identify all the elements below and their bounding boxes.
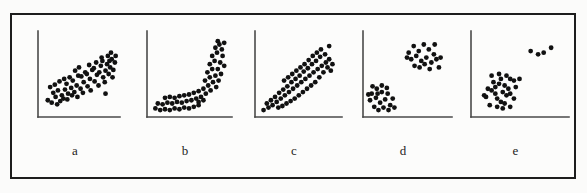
scatter-point (182, 93, 187, 98)
scatter-point (63, 87, 68, 92)
panel-e-axes (471, 31, 569, 117)
scatter-point (175, 99, 180, 104)
scatter-point (517, 77, 522, 82)
scatter-point (163, 107, 168, 112)
scatter-point (500, 106, 505, 111)
scatter-point (427, 67, 432, 72)
scatter-point (163, 95, 168, 100)
scatter-point (215, 39, 220, 44)
scatter-point (220, 54, 225, 59)
scatter-point (184, 99, 189, 104)
scatter-point (277, 90, 282, 95)
scatter-point (289, 80, 294, 85)
scatter-point (315, 67, 320, 72)
scatter-point (196, 89, 201, 94)
scatter-point (112, 60, 117, 65)
scatter-point (264, 101, 269, 106)
scatter-point (182, 105, 187, 110)
scatter-point (78, 86, 83, 91)
scatter-point (57, 79, 62, 84)
scatter-point (495, 96, 500, 101)
panel-a-label: a (26, 143, 124, 159)
scatter-point (56, 88, 61, 93)
scatter-point (207, 75, 212, 80)
scatter-point (319, 63, 324, 68)
scatter-point (405, 55, 410, 60)
scatter-point (409, 57, 414, 62)
scatter-point (292, 96, 297, 101)
scatter-point (301, 69, 306, 74)
scatter-point (383, 97, 388, 102)
scatter-point (314, 58, 319, 63)
scatter-point (286, 75, 291, 80)
scatter-point (282, 78, 287, 83)
scatter-point (107, 58, 112, 63)
scatter-point (101, 75, 106, 80)
scatter-point (213, 73, 218, 78)
scatter-point (64, 81, 69, 86)
scatter-point (206, 83, 211, 88)
scatter-point (269, 98, 274, 103)
scatter-point (502, 83, 507, 88)
scatter-point (205, 70, 210, 75)
scatter-point (280, 104, 285, 109)
scatter-point (219, 72, 224, 77)
panel-c-plot (243, 15, 345, 143)
scatter-point (504, 93, 509, 98)
scatter-point (386, 108, 391, 113)
scatter-point (158, 108, 163, 113)
scatter-point (65, 97, 70, 102)
scatter-point (504, 73, 509, 78)
scatter-point (210, 54, 215, 59)
scatter-point (170, 101, 175, 106)
scatter-point (110, 75, 115, 80)
scatter-point (323, 52, 328, 57)
scatter-point (528, 49, 533, 54)
scatter-point (73, 68, 78, 73)
panel-b: b (135, 15, 235, 181)
scatter-point (318, 54, 323, 59)
scatter-point (499, 99, 504, 104)
scatter-point (79, 74, 84, 79)
scatter-point (549, 45, 554, 50)
scatter-point (201, 86, 206, 91)
scatter-point (96, 83, 101, 88)
scatter-point (376, 108, 381, 113)
scatter-point (385, 91, 390, 96)
scatter-point (106, 72, 111, 77)
scatter-point (437, 65, 442, 70)
scatter-point (49, 100, 54, 105)
scatter-point (212, 58, 217, 63)
scatter-point (434, 57, 439, 62)
scatter-point (417, 65, 422, 70)
scatter-point (485, 86, 490, 91)
scatter-point (81, 80, 86, 85)
scatter-point (309, 83, 314, 88)
scatter-point (299, 80, 304, 85)
scatter-point (414, 54, 419, 59)
scatter-point (287, 90, 292, 95)
scatter-point (412, 63, 417, 68)
scatter-point (97, 70, 102, 75)
scatter-point (167, 108, 172, 113)
scatter-point (191, 90, 196, 95)
scatter-point (87, 63, 92, 68)
scatter-point (187, 106, 192, 111)
scatter-point (512, 96, 517, 101)
scatter-point (210, 67, 215, 72)
scatter-point (219, 47, 224, 52)
panel-a: a (26, 15, 124, 181)
scatter-point (301, 90, 306, 95)
scatter-point (499, 77, 504, 82)
scatter-point (368, 98, 373, 103)
scatter-point (284, 101, 289, 106)
scatter-point (70, 78, 75, 83)
scatter-point (109, 50, 114, 55)
scatter-point (422, 62, 427, 67)
scatter-point (266, 105, 271, 110)
scatter-point (285, 84, 290, 89)
scatter-point (189, 98, 194, 103)
panel-e-points (482, 45, 554, 110)
scatter-point (328, 68, 333, 73)
scatter-point (222, 63, 227, 68)
